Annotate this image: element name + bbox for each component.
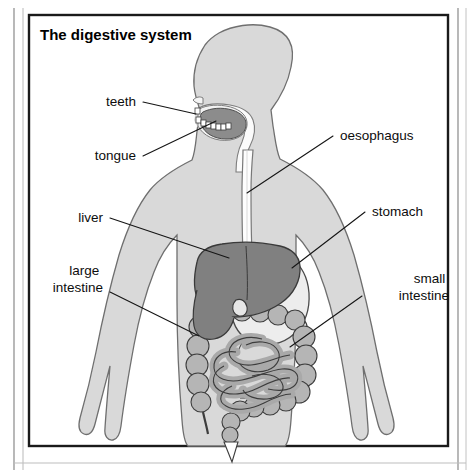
label-small-intestine-line-2: intestine xyxy=(399,288,449,303)
digestive-system-diagram: The digestive system teeth tongue oesoph… xyxy=(0,0,472,476)
label-tongue: tongue xyxy=(95,148,136,163)
gallbladder xyxy=(233,299,247,316)
oesophagus-tube xyxy=(242,150,253,252)
label-large-intestine-line-2: intestine xyxy=(53,280,103,295)
figure-title: The digestive system xyxy=(40,26,192,43)
oesophagus xyxy=(242,150,253,252)
label-oesophagus: oesophagus xyxy=(340,128,414,143)
label-stomach: stomach xyxy=(372,204,423,219)
label-large-intestine-line-1: large xyxy=(69,263,99,278)
label-teeth: teeth xyxy=(106,94,136,109)
label-liver: liver xyxy=(78,210,103,225)
label-small-intestine-line-1: small xyxy=(414,271,446,286)
digestive-system-figure: The digestive system teeth tongue oesoph… xyxy=(0,0,472,476)
